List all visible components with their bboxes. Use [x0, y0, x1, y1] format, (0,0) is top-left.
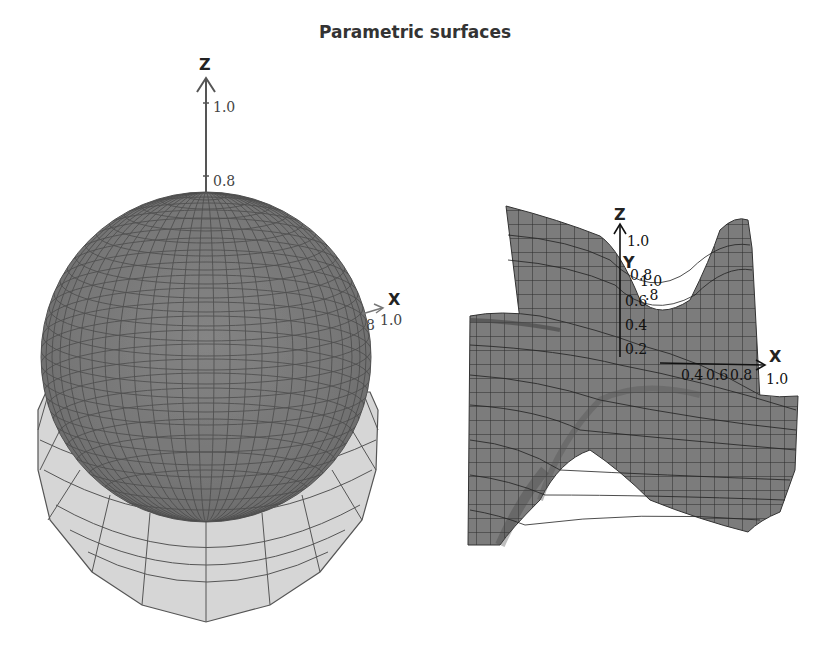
left-z-axis-label: Z: [199, 55, 211, 74]
left-z-tick-1: 1.0: [213, 99, 235, 115]
left-x-tick-1: 8: [366, 317, 375, 333]
sphere-surface: [41, 191, 371, 522]
right-x-tick: 0.8: [730, 367, 752, 383]
right-x-tick: 1.0: [766, 371, 788, 387]
right-z-axis-label: Z: [614, 205, 626, 224]
right-x-tick: 0.4: [681, 367, 703, 383]
right-x-axis-label: X: [769, 347, 782, 366]
left-x-axis-label: X: [388, 290, 401, 309]
right-x-tick: 0.6: [706, 367, 728, 383]
right-y-tick: 0.4: [625, 317, 647, 333]
right-y-tick: 0.6: [625, 293, 647, 309]
left-x-tick-2: 1.0: [380, 312, 402, 328]
plot-canvas[interactable]: Z 1.0 0.8 X 8 1.0 Z 1.0 Y: [0, 0, 830, 655]
right-z-tick-1: 1.0: [627, 233, 649, 249]
left-z-tick-2: 0.8: [213, 173, 235, 189]
right-y-tick: 0.2: [625, 341, 647, 357]
